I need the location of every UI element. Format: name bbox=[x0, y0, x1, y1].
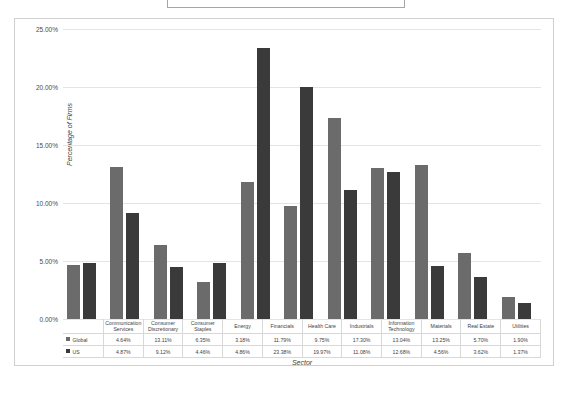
bar-us[interactable] bbox=[431, 266, 444, 319]
bar-us[interactable] bbox=[257, 48, 270, 319]
bar-group bbox=[106, 29, 149, 319]
table-cell-value: 13.04% bbox=[382, 334, 422, 346]
bar-global[interactable] bbox=[154, 245, 167, 319]
legend-item-us[interactable]: US bbox=[63, 346, 104, 358]
bar-group bbox=[411, 29, 454, 319]
bar-group bbox=[280, 29, 323, 319]
data-table: CommunicationServicesConsumerDiscretiona… bbox=[63, 319, 541, 358]
bar-group bbox=[498, 29, 541, 319]
table-cell-value: 5.70% bbox=[461, 334, 501, 346]
sector-label-line: Industrials bbox=[342, 323, 381, 329]
table-cell-value: 1.37% bbox=[501, 346, 541, 358]
sector-label-line: Health Care bbox=[303, 323, 342, 329]
table-cell-value: 17.30% bbox=[342, 334, 382, 346]
table-column-header: Energy bbox=[223, 319, 263, 334]
y-axis-tick-label: 5.00% bbox=[40, 258, 58, 265]
table-column-header: Utilities bbox=[501, 319, 541, 334]
y-axis-tick-label: 25.00% bbox=[36, 26, 58, 33]
bar-us[interactable] bbox=[518, 303, 531, 319]
bar-group bbox=[63, 29, 106, 319]
table-cell-value: 3.18% bbox=[223, 334, 263, 346]
bar-global[interactable] bbox=[67, 265, 80, 319]
table-column-header: InformationTechnology bbox=[382, 319, 422, 334]
table-column-header: Financials bbox=[262, 319, 302, 334]
bar-group bbox=[150, 29, 193, 319]
table-column-header: Industrials bbox=[342, 319, 382, 334]
table-row: US4.87%9.12%4.46%4.86%23.38%19.97%11.08%… bbox=[63, 346, 541, 358]
table-cell-value: 11.79% bbox=[262, 334, 302, 346]
bar-us[interactable] bbox=[213, 263, 226, 319]
sector-label-line: Discretionary bbox=[144, 326, 183, 332]
legend-swatch-icon bbox=[66, 337, 70, 341]
sector-label-line: Real Estate bbox=[461, 323, 500, 329]
bar-global[interactable] bbox=[371, 168, 384, 319]
sector-label-line: Materials bbox=[422, 323, 461, 329]
sector-label-line: Utilities bbox=[501, 323, 540, 329]
bar-global[interactable] bbox=[328, 118, 341, 319]
legend-item-global[interactable]: Global bbox=[63, 334, 104, 346]
legend-label: Global bbox=[73, 337, 88, 343]
bar-global[interactable] bbox=[241, 182, 254, 319]
bar-us[interactable] bbox=[387, 172, 400, 319]
bar-us[interactable] bbox=[83, 263, 96, 319]
table-column-header: CommunicationServices bbox=[104, 319, 144, 334]
sector-label-line: Services bbox=[104, 326, 143, 332]
sector-label-line: Staples bbox=[183, 326, 222, 332]
bar-global[interactable] bbox=[502, 297, 515, 319]
table-cell-value: 3.62% bbox=[461, 346, 501, 358]
table-column-header: ConsumerDiscretionary bbox=[143, 319, 183, 334]
bars-layer bbox=[63, 29, 541, 319]
table-cell-value: 1.90% bbox=[501, 334, 541, 346]
bar-us[interactable] bbox=[170, 267, 183, 319]
chart-title-box[interactable] bbox=[167, 0, 405, 8]
table-cell-value: 11.08% bbox=[342, 346, 382, 358]
table-cell-value: 4.64% bbox=[104, 334, 144, 346]
bar-us[interactable] bbox=[300, 87, 313, 319]
table-cell-value: 23.38% bbox=[262, 346, 302, 358]
legend-swatch-icon bbox=[66, 349, 70, 353]
sector-label-line: Energy bbox=[223, 323, 262, 329]
bar-group bbox=[237, 29, 280, 319]
bar-group bbox=[367, 29, 410, 319]
y-axis-tick-label: 15.00% bbox=[36, 142, 58, 149]
table-column-header: Health Care bbox=[302, 319, 342, 334]
bar-global[interactable] bbox=[284, 206, 297, 319]
table-cell-value: 4.46% bbox=[183, 346, 223, 358]
table-corner-cell bbox=[63, 319, 104, 334]
bar-group bbox=[454, 29, 497, 319]
table-row: Global4.64%13.11%6.35%3.18%11.79%9.75%17… bbox=[63, 334, 541, 346]
bar-global[interactable] bbox=[458, 253, 471, 319]
table-column-header: Real Estate bbox=[461, 319, 501, 334]
x-axis-title: Sector bbox=[63, 359, 541, 366]
sector-label-line: Technology bbox=[382, 326, 421, 332]
legend-label: US bbox=[73, 349, 80, 355]
plot-area: 0.00%5.00%10.00%15.00%20.00%25.00% bbox=[63, 29, 541, 319]
bar-us[interactable] bbox=[344, 190, 357, 319]
table-cell-value: 19.97% bbox=[302, 346, 342, 358]
bar-group bbox=[324, 29, 367, 319]
bar-global[interactable] bbox=[197, 282, 210, 319]
bar-us[interactable] bbox=[474, 277, 487, 319]
y-axis-tick-label: 0.00% bbox=[40, 316, 58, 323]
bar-global[interactable] bbox=[110, 167, 123, 319]
table-cell-value: 13.11% bbox=[143, 334, 183, 346]
bar-group bbox=[193, 29, 236, 319]
y-axis-tick-label: 20.00% bbox=[36, 84, 58, 91]
sector-label-line: Financials bbox=[263, 323, 302, 329]
table-header-row: CommunicationServicesConsumerDiscretiona… bbox=[63, 319, 541, 334]
table-cell-value: 4.87% bbox=[104, 346, 144, 358]
table-cell-value: 6.35% bbox=[183, 334, 223, 346]
table-cell-value: 9.75% bbox=[302, 334, 342, 346]
table-cell-value: 4.86% bbox=[223, 346, 263, 358]
bar-us[interactable] bbox=[126, 213, 139, 319]
table-column-header: Materials bbox=[421, 319, 461, 334]
table-cell-value: 9.12% bbox=[143, 346, 183, 358]
bar-global[interactable] bbox=[415, 165, 428, 319]
y-axis-tick-label: 10.00% bbox=[36, 200, 58, 207]
table-cell-value: 12.68% bbox=[382, 346, 422, 358]
table-cell-value: 13.25% bbox=[421, 334, 461, 346]
table-cell-value: 4.56% bbox=[421, 346, 461, 358]
chart-container[interactable]: Percentage of Firms 0.00%5.00%10.00%15.0… bbox=[14, 18, 554, 366]
table-column-header: ConsumerStaples bbox=[183, 319, 223, 334]
